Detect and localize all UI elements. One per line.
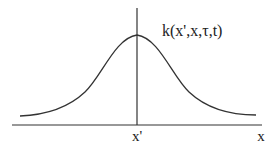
kernel-curve [20, 35, 256, 116]
peak-label: x' [132, 128, 143, 144]
axis-label: x [257, 128, 265, 144]
curve-label: k(x',x,τ,t) [162, 22, 222, 40]
kernel-diagram: k(x',x,τ,t) x' x [0, 0, 278, 149]
